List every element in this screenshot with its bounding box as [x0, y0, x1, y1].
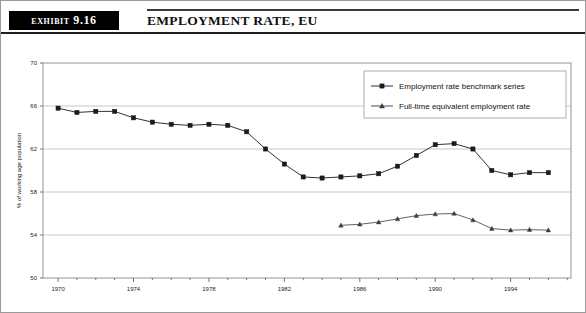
data-point: [433, 143, 437, 147]
exhibit-header: EXHIBIT 9.16 EMPLOYMENT RATE, EU: [1, 1, 586, 34]
data-point: [546, 171, 550, 175]
data-point: [94, 109, 98, 113]
data-point: [150, 120, 154, 124]
x-axis-tick-labels: 1970197419781982198619901994: [51, 286, 518, 292]
data-point: [509, 173, 513, 177]
exhibit-figure: EXHIBIT 9.16 EMPLOYMENT RATE, EU 1970197…: [0, 0, 586, 313]
page-title: EMPLOYMENT RATE, EU: [147, 13, 318, 29]
x-axis-ticks: [58, 278, 567, 282]
y-tick-label: 62: [30, 146, 37, 152]
series-line: [341, 214, 548, 231]
x-tick-label: 1974: [127, 286, 141, 292]
legend-label-2: Full-time equivalent employment rate: [399, 102, 531, 111]
data-point: [471, 147, 475, 151]
data-point: [263, 147, 267, 151]
data-point: [377, 172, 381, 176]
chart-legend: Employment rate benchmark seriesFull-tim…: [364, 71, 566, 118]
title-rule: [147, 9, 579, 11]
series-2: [339, 211, 551, 232]
data-point: [282, 162, 286, 166]
chart-plot-area: 1970197419781982198619901994 50545862667…: [1, 34, 586, 313]
data-point: [56, 106, 60, 110]
data-point: [169, 122, 173, 126]
x-tick-label: 1982: [278, 286, 292, 292]
data-point: [245, 130, 249, 134]
data-point: [452, 142, 456, 146]
y-tick-label: 70: [30, 60, 37, 66]
y-tick-label: 66: [30, 103, 37, 109]
data-point: [131, 116, 135, 120]
y-axis-tick-labels: 505458626670: [30, 60, 37, 281]
y-axis-title: % of working age population: [16, 133, 22, 208]
data-series-group: [56, 106, 551, 232]
x-tick-label: 1990: [429, 286, 443, 292]
data-point: [395, 164, 399, 168]
data-point: [339, 175, 343, 179]
data-point: [358, 174, 362, 178]
x-tick-label: 1986: [353, 286, 367, 292]
x-tick-label: 1970: [51, 286, 65, 292]
y-tick-label: 50: [30, 275, 37, 281]
data-point: [414, 153, 418, 157]
x-tick-label: 1978: [202, 286, 216, 292]
data-point: [320, 176, 324, 180]
y-tick-label: 58: [30, 189, 37, 195]
data-point: [188, 123, 192, 127]
data-point: [527, 171, 531, 175]
exhibit-number-badge: EXHIBIT 9.16: [9, 11, 119, 30]
data-point: [75, 110, 79, 114]
legend-label-1: Employment rate benchmark series: [399, 82, 525, 91]
line-chart-svg: 1970197419781982198619901994 50545862667…: [1, 34, 586, 313]
legend-marker-1: [380, 84, 384, 88]
data-point: [301, 175, 305, 179]
x-tick-label: 1994: [504, 286, 518, 292]
y-tick-label: 54: [30, 232, 37, 238]
y-axis-title-text: % of working age population: [16, 133, 22, 208]
data-point: [113, 109, 117, 113]
data-point: [490, 168, 494, 172]
data-point: [226, 123, 230, 127]
data-point: [207, 122, 211, 126]
